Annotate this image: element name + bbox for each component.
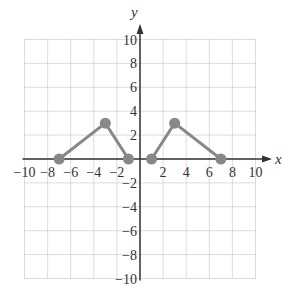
axes (23, 24, 273, 281)
data-point (54, 154, 65, 165)
x-tick-label: −8 (40, 165, 55, 180)
x-tick-label: 8 (229, 165, 236, 180)
x-tick-label: 10 (249, 165, 263, 180)
y-tick-label: −2 (122, 176, 137, 191)
y-axis-arrow-icon (137, 24, 144, 34)
y-tick-label: 2 (130, 128, 137, 143)
data-point (169, 118, 180, 129)
x-tick-label: 6 (206, 165, 213, 180)
y-tick-label: −8 (122, 248, 137, 263)
x-tick-label: 4 (183, 165, 190, 180)
data-point (100, 118, 111, 129)
y-tick-label: −6 (122, 224, 137, 239)
y-tick-label: 6 (130, 80, 137, 95)
x-axis-arrow-icon (262, 156, 272, 163)
right-triangle (146, 118, 226, 165)
x-tick-label: −6 (63, 165, 78, 180)
data-point (146, 154, 157, 165)
y-tick-label: 4 (130, 104, 137, 119)
coordinate-plane-chart: xy−10−8−6−4−2246810108642−2−4−6−8−10 (0, 0, 285, 301)
x-tick-label: −4 (86, 165, 101, 180)
y-tick-label: −10 (115, 272, 137, 287)
y-tick-label: 10 (123, 33, 137, 48)
y-axis-label: y (129, 4, 138, 20)
y-tick-label: −4 (122, 200, 137, 215)
data-point (215, 154, 226, 165)
data-point (123, 154, 134, 165)
y-tick-label: 8 (130, 56, 137, 71)
x-axis-label: x (274, 151, 282, 167)
x-tick-label: 2 (160, 165, 167, 180)
x-tick-label: −10 (14, 165, 36, 180)
left-triangle (54, 118, 134, 165)
